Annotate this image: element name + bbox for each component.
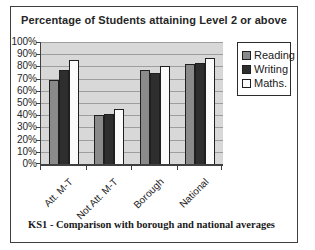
y-tick-label: 100% [11,36,37,48]
chart-caption: KS1 - Comparison with borough and nation… [28,219,275,230]
legend-item: Reading [242,49,290,61]
bar-writing [104,114,114,164]
y-axis-tick [36,152,41,153]
bar-group [140,42,170,164]
y-tick-label: 70% [11,73,37,85]
chart-title: Percentage of Students attaining Level 2… [11,14,297,26]
x-axis-tick [177,166,178,170]
y-tick-label: 30% [11,121,37,133]
x-axis-tick [40,166,41,170]
bar-reading [185,64,195,164]
y-tick-label: 40% [11,109,37,121]
y-tick-label: 20% [11,134,37,146]
x-axis-tick [221,166,222,170]
legend-label: Writing [254,63,288,75]
legend-item: Maths. [242,77,290,89]
legend-label: Maths. [254,77,287,89]
legend-swatch-writing [242,65,251,74]
y-axis-tick [36,140,41,141]
bar-writing [195,63,205,164]
y-tick-label: 50% [11,97,37,109]
screenshot-root: { "frame": { "border_color": "#3f3f3f", … [0,0,315,250]
y-axis-tick [36,127,41,128]
bar-maths [114,109,124,164]
y-tick-label: 90% [11,48,37,60]
bar-reading [49,80,59,164]
x-axis-tick [86,166,87,170]
legend-label: Reading [254,49,295,61]
bar-reading [140,70,150,164]
bar-maths [205,58,215,164]
y-axis-tick [36,79,41,80]
y-axis-tick [36,103,41,104]
y-tick-label: 80% [11,60,37,72]
chart-frame: Percentage of Students attaining Level 2… [10,6,298,243]
bar-reading [94,115,104,164]
y-axis-tick [36,66,41,67]
y-axis-tick [36,91,41,92]
plot-area [40,42,223,166]
x-axis-tick [131,166,132,170]
y-tick-label: 0% [11,158,37,170]
y-axis-labels: 100%90%80%70%60%50%40%30%20%10%0% [11,42,37,164]
y-axis-tick [36,163,41,164]
y-axis-tick [36,54,41,55]
bar-writing [59,70,69,164]
y-tick-label: 10% [11,146,37,158]
bar-writing [150,73,160,165]
y-axis-tick [36,115,41,116]
bar-group [49,42,79,164]
y-axis-tick [36,42,41,43]
x-axis-labels: Att. M-TNot Att. M-TBoroughNational [40,166,222,221]
legend-swatch-maths [242,79,251,88]
y-tick-label: 60% [11,85,37,97]
legend-swatch-reading [242,51,251,60]
bar-group [185,42,215,164]
legend-item: Writing [242,63,290,75]
bar-group [94,42,124,164]
bar-maths [69,60,79,164]
bar-maths [160,66,170,164]
legend: ReadingWritingMaths. [237,42,291,96]
